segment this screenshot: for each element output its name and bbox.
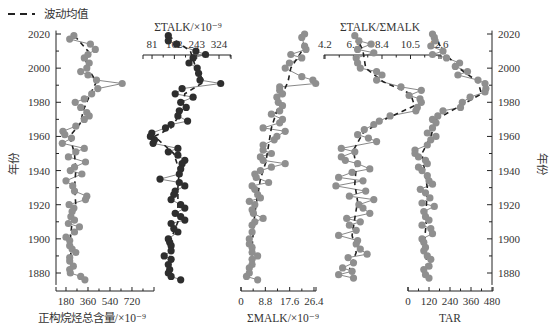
data-point <box>429 230 436 237</box>
year-tick-label: 1940 <box>28 165 51 177</box>
x-tick-label: 10.5 <box>401 38 421 50</box>
data-point <box>406 92 413 99</box>
data-point <box>357 218 364 225</box>
x-tick-label: 0 <box>405 295 411 307</box>
data-point <box>81 145 88 152</box>
data-point <box>181 205 188 212</box>
year-tick-label: 2000 <box>28 62 51 74</box>
year-tick-label: 1880 <box>498 267 521 279</box>
data-point <box>443 54 450 61</box>
data-point <box>185 59 192 66</box>
data-point <box>72 249 79 256</box>
data-point <box>174 145 181 152</box>
data-point <box>276 107 283 114</box>
year-tick-label: 1960 <box>28 130 51 142</box>
data-point <box>287 51 294 58</box>
data-point <box>254 276 261 283</box>
data-point <box>176 170 183 177</box>
x-tick-label: 720 <box>124 295 141 307</box>
data-point <box>71 188 78 195</box>
year-tick-label: 1900 <box>498 233 521 245</box>
year-axis-title-left: 年份 <box>7 152 20 175</box>
data-point <box>366 210 373 217</box>
legend-label: 波动均值 <box>44 8 89 20</box>
data-point <box>427 42 434 49</box>
data-point <box>177 99 184 106</box>
data-point <box>378 71 385 78</box>
data-point <box>72 123 79 130</box>
data-point <box>418 87 425 94</box>
data-point <box>335 232 342 239</box>
data-point <box>161 252 168 259</box>
data-point <box>343 215 350 222</box>
data-point <box>354 46 361 53</box>
panel-ratio: 4.26.38.410.512.6 <box>318 32 449 282</box>
data-point <box>373 138 380 145</box>
data-point <box>350 259 357 266</box>
data-point <box>346 193 353 200</box>
data-point <box>81 95 88 102</box>
data-point <box>71 228 78 235</box>
data-point <box>177 276 184 283</box>
figure: 波动均值 18801900192019401960198020002020 年份… <box>0 0 552 330</box>
data-point <box>370 49 377 56</box>
data-point <box>119 80 126 87</box>
x-tick-label: 180 <box>58 295 75 307</box>
data-point <box>65 220 72 227</box>
data-point <box>174 228 181 235</box>
data-point <box>81 116 88 123</box>
data-point <box>332 182 339 189</box>
data-point <box>415 153 422 160</box>
year-axis-left: 18801900192019401960198020002020 <box>28 28 61 285</box>
data-point <box>370 196 377 203</box>
data-point <box>418 222 425 229</box>
data-point <box>181 217 188 224</box>
data-point <box>265 179 272 186</box>
data-point <box>84 71 91 78</box>
data-point <box>339 264 346 271</box>
data-point <box>312 80 319 87</box>
panel-tar: 0120240360480 <box>405 30 501 307</box>
data-point <box>353 227 360 234</box>
data-point <box>61 131 68 138</box>
data-point <box>249 228 256 235</box>
data-point <box>276 119 283 126</box>
data-point <box>368 41 375 48</box>
x-tick-label: 360 <box>80 295 97 307</box>
data-point <box>249 222 256 229</box>
data-point <box>65 153 72 160</box>
xlabel-smalk: ΣMALK/×10⁻⁹ <box>247 312 319 324</box>
data-point <box>173 41 180 48</box>
data-point <box>439 107 446 114</box>
data-point <box>59 140 66 147</box>
data-point <box>195 70 202 77</box>
data-point <box>359 177 366 184</box>
data-point <box>457 104 464 111</box>
x-tick-label: 4.2 <box>318 38 332 50</box>
year-tick-label: 1980 <box>28 96 51 108</box>
data-point <box>429 181 436 188</box>
year-tick-label: 2000 <box>498 62 521 74</box>
data-point <box>62 177 69 184</box>
year-axis-right: 18801900192019401960198020002020 <box>487 28 521 285</box>
data-point <box>424 141 431 148</box>
data-point <box>165 37 172 44</box>
data-point <box>464 68 471 75</box>
data-point <box>77 68 84 75</box>
data-point <box>282 128 289 135</box>
data-point <box>357 246 364 253</box>
data-point <box>397 83 404 90</box>
x-tick-label: 360 <box>463 295 480 307</box>
year-tick-label: 1960 <box>498 130 521 142</box>
data-point <box>467 94 474 101</box>
data-point <box>92 46 99 53</box>
data-point <box>190 94 197 101</box>
year-tick-label: 2020 <box>28 28 51 40</box>
data-point <box>302 46 309 53</box>
data-point <box>298 34 305 41</box>
panel-smalk: 08.817.626.4 <box>238 30 324 307</box>
data-point <box>179 85 186 92</box>
data-point <box>150 140 157 147</box>
data-point <box>168 273 175 280</box>
year-axis-title-right: 年份 <box>536 153 549 176</box>
